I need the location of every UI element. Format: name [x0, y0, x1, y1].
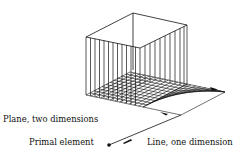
plane-label: Plane, two dimensions	[3, 115, 98, 123]
line-label: Line, one dimension	[147, 138, 233, 146]
box-top-face	[86, 13, 187, 48]
dot-icon	[107, 143, 111, 147]
arrow-icon	[123, 139, 132, 144]
dimensions-diagram	[0, 0, 247, 154]
plane-grid	[86, 72, 187, 107]
arrow-icon	[160, 112, 168, 116]
primal-element-label: Primal element	[29, 138, 94, 146]
